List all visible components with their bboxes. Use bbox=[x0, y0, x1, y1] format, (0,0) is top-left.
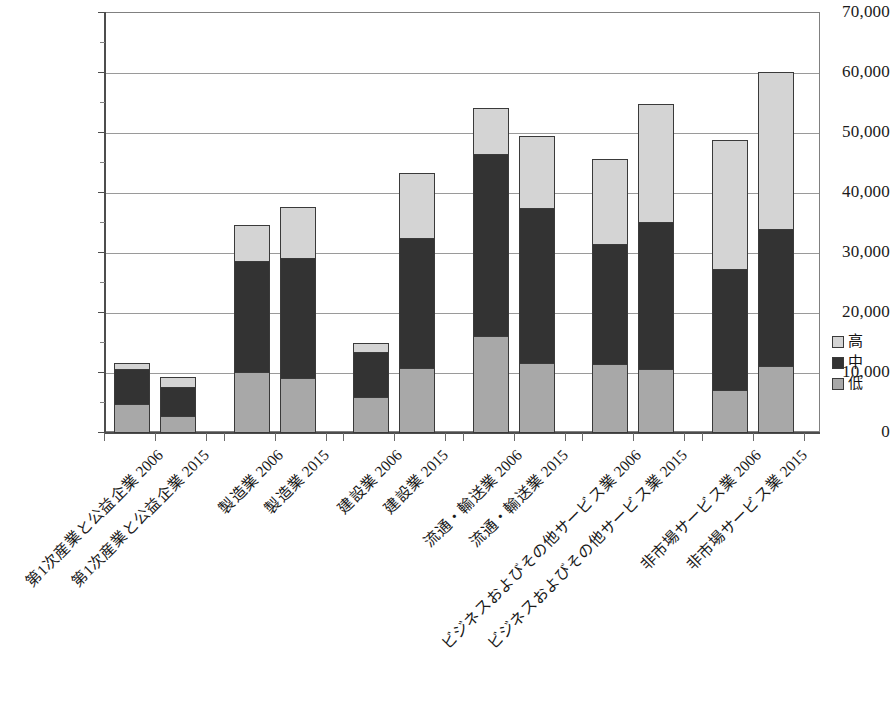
bar-series-layer bbox=[104, 12, 820, 432]
bar[interactable] bbox=[353, 343, 389, 432]
legend-label: 高 bbox=[848, 334, 863, 349]
bar-segment-high bbox=[519, 136, 555, 209]
bar-segment-mid bbox=[592, 244, 628, 365]
bar-segment-mid bbox=[160, 387, 196, 417]
chart-legend: 高中低 bbox=[832, 334, 863, 391]
bar-segment-low bbox=[353, 397, 389, 433]
bar-segment-high bbox=[592, 159, 628, 245]
legend-swatch-icon bbox=[832, 357, 844, 369]
legend-label: 中 bbox=[848, 355, 863, 370]
bar-segment-mid bbox=[519, 208, 555, 363]
bar[interactable] bbox=[519, 136, 555, 432]
legend-item[interactable]: 高 bbox=[832, 334, 863, 349]
bar-segment-high bbox=[758, 72, 794, 230]
legend-swatch-icon bbox=[832, 378, 844, 390]
bar-segment-high bbox=[399, 173, 435, 238]
bar[interactable] bbox=[114, 363, 150, 432]
bar-segment-low bbox=[160, 416, 196, 433]
bar-segment-high bbox=[712, 140, 748, 270]
bar-segment-low bbox=[234, 372, 270, 433]
bar-segment-low bbox=[638, 369, 674, 433]
bar[interactable] bbox=[592, 159, 628, 432]
bar-segment-mid bbox=[280, 258, 316, 379]
bar-segment-low bbox=[519, 363, 555, 433]
bar-segment-low bbox=[758, 366, 794, 433]
bar[interactable] bbox=[234, 225, 270, 432]
bar-segment-mid bbox=[638, 222, 674, 370]
stacked-bar-chart: 70,00060,00050,00040,00030,00020,00010,0… bbox=[0, 0, 890, 727]
legend-label: 低 bbox=[848, 376, 863, 391]
bar[interactable] bbox=[758, 72, 794, 432]
bar-segment-mid bbox=[353, 352, 389, 398]
bar-segment-high bbox=[638, 104, 674, 223]
bar-segment-low bbox=[114, 404, 150, 433]
x-axis-category-labels: 第1次産業と公益企業 2006第1次産業と公益企業 2015製造業 2006製造… bbox=[0, 432, 890, 727]
bar-segment-low bbox=[473, 336, 509, 433]
bar-segment-low bbox=[592, 364, 628, 433]
bar[interactable] bbox=[280, 207, 316, 432]
bar[interactable] bbox=[160, 377, 196, 432]
bar[interactable] bbox=[712, 140, 748, 432]
bar-segment-mid bbox=[399, 238, 435, 369]
bar-segment-low bbox=[399, 368, 435, 433]
legend-item[interactable]: 中 bbox=[832, 355, 863, 370]
bar-segment-low bbox=[712, 390, 748, 433]
bar-segment-high bbox=[473, 108, 509, 155]
bar-segment-high bbox=[234, 225, 270, 262]
bar-segment-mid bbox=[758, 229, 794, 367]
bar[interactable] bbox=[399, 173, 435, 432]
legend-swatch-icon bbox=[832, 336, 844, 348]
bar-segment-mid bbox=[114, 369, 150, 405]
bar[interactable] bbox=[638, 104, 674, 432]
bar-segment-low bbox=[280, 378, 316, 433]
bar-segment-mid bbox=[473, 154, 509, 337]
bar[interactable] bbox=[473, 108, 509, 432]
legend-item[interactable]: 低 bbox=[832, 376, 863, 391]
bar-segment-mid bbox=[234, 261, 270, 373]
bar-segment-high bbox=[280, 207, 316, 259]
bar-segment-mid bbox=[712, 269, 748, 391]
